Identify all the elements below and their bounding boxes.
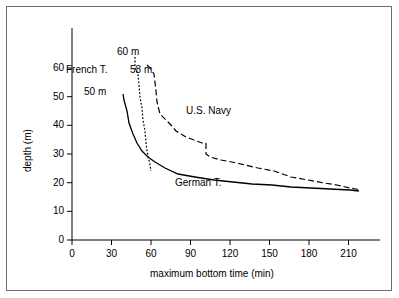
- series-us-navy-58m: [147, 65, 361, 190]
- x-tick-label-90: 90: [178, 248, 204, 259]
- y-tick-label-40: 40: [38, 119, 64, 130]
- x-tick-label-0: 0: [59, 248, 85, 259]
- x-tick-label-30: 30: [99, 248, 125, 259]
- y-tick-marks: [67, 68, 72, 240]
- x-tick-label-60: 60: [138, 248, 164, 259]
- y-tick-label-50: 50: [38, 91, 64, 102]
- annotation-french-t: French T.: [66, 64, 108, 75]
- x-tick-label-150: 150: [257, 248, 283, 259]
- y-tick-label-20: 20: [38, 177, 64, 188]
- annotation-50m: 50 m: [84, 86, 106, 97]
- x-tick-label-180: 180: [296, 248, 322, 259]
- y-tick-label-10: 10: [38, 205, 64, 216]
- x-tick-label-210: 210: [336, 248, 362, 259]
- y-tick-label-0: 0: [38, 234, 64, 245]
- x-axis-title: maximum bottom time (min): [150, 268, 274, 279]
- chart-figure: 0 10 20 30 40 50 60 0 30 60 90 120 150 1…: [0, 0, 399, 298]
- annotation-us-navy: U.S. Navy: [186, 105, 231, 116]
- annotation-german-t: German T.: [175, 177, 222, 188]
- y-tick-label-30: 30: [38, 148, 64, 159]
- annotation-french-60m: 60 m: [117, 46, 139, 57]
- y-tick-label-60: 60: [38, 62, 64, 73]
- x-tick-label-120: 120: [217, 248, 243, 259]
- x-tick-marks: [72, 240, 349, 245]
- annotation-58m: 58 m: [130, 64, 152, 75]
- y-axis-title: depth (m): [22, 129, 33, 172]
